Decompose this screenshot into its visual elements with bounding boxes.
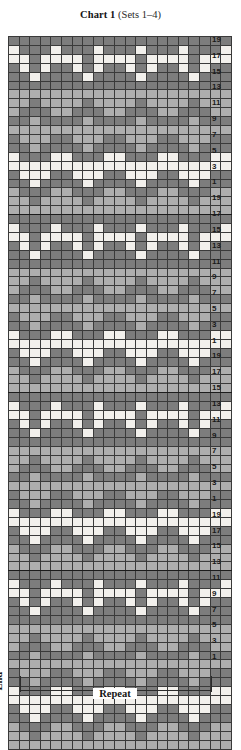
chart-cell [93, 161, 104, 170]
chart-cell [40, 250, 51, 259]
chart-cell [51, 393, 62, 402]
chart-cell [40, 54, 51, 63]
chart-cell [168, 500, 179, 509]
chart-cell [221, 704, 232, 713]
chart-cell [9, 651, 20, 660]
chart-cell [9, 437, 20, 446]
chart-cell [189, 562, 200, 571]
chart-row [9, 437, 232, 446]
chart-row [9, 259, 232, 268]
chart-cell [189, 161, 200, 170]
chart-cell [199, 500, 210, 509]
chart-cell [178, 446, 189, 455]
chart-cell [168, 464, 179, 473]
chart-cell [104, 81, 115, 90]
chart-cell [189, 37, 200, 46]
chart-cell [19, 45, 30, 54]
chart-cell [72, 170, 83, 179]
chart-cell [125, 268, 136, 277]
chart-cell [19, 740, 30, 749]
chart-cell [168, 143, 179, 152]
chart-cell [62, 428, 73, 437]
chart-cell [168, 526, 179, 535]
chart-cell [51, 375, 62, 384]
chart-cell [199, 268, 210, 277]
chart-cell [189, 544, 200, 553]
chart-cell [83, 304, 94, 313]
chart-cell [136, 713, 147, 722]
chart-cell [136, 72, 147, 81]
chart-cell [93, 384, 104, 393]
chart-cell [178, 197, 189, 206]
chart-cell [9, 304, 20, 313]
chart-cell [115, 384, 126, 393]
chart-cell [168, 250, 179, 259]
chart-row [9, 108, 232, 117]
chart-cell [72, 580, 83, 589]
chart-cell [72, 134, 83, 143]
row-number: 13 [212, 83, 241, 91]
chart-cell [62, 63, 73, 72]
chart-cell [83, 473, 94, 482]
chart-cell [125, 232, 136, 241]
chart-cell [9, 45, 20, 54]
chart-cell [72, 366, 83, 375]
chart-cell [115, 633, 126, 642]
chart-cell [62, 117, 73, 126]
chart-cell [62, 81, 73, 90]
chart-cell [199, 117, 210, 126]
chart-cell [19, 535, 30, 544]
chart-cell [83, 740, 94, 749]
chart-cell [9, 633, 20, 642]
chart-cell [157, 188, 168, 197]
chart-cell [189, 90, 200, 99]
chart-cell [51, 117, 62, 126]
chart-cell [19, 544, 30, 553]
chart-cell [104, 624, 115, 633]
chart-cell [157, 330, 168, 339]
chart-cell [115, 215, 126, 224]
row-number: 9 [212, 432, 241, 440]
chart-cell [178, 339, 189, 348]
chart-cell [62, 633, 73, 642]
chart-cell [157, 553, 168, 562]
chart-cell [62, 482, 73, 491]
chart-cell [125, 482, 136, 491]
chart-cell [72, 446, 83, 455]
chart-cell [221, 722, 232, 731]
chart-cell [62, 90, 73, 99]
chart-cell [125, 535, 136, 544]
chart-cell [51, 428, 62, 437]
chart-row [9, 295, 232, 304]
chart-cell [72, 206, 83, 215]
chart-cell [136, 277, 147, 286]
chart-cell [157, 704, 168, 713]
chart-cell [115, 37, 126, 46]
chart-cell [83, 197, 94, 206]
chart-cell [178, 330, 189, 339]
chart-cell [189, 642, 200, 651]
chart-cell [115, 428, 126, 437]
chart-cell [189, 295, 200, 304]
chart-cell [178, 393, 189, 402]
chart-cell [199, 393, 210, 402]
chart-cell [136, 90, 147, 99]
chart-cell [157, 562, 168, 571]
chart-cell [189, 598, 200, 607]
chart-cell [115, 99, 126, 108]
chart-cell [178, 63, 189, 72]
chart-cell [210, 704, 221, 713]
chart-cell [136, 143, 147, 152]
chart-cell [136, 704, 147, 713]
chart-cell [93, 99, 104, 108]
chart-cell [125, 411, 136, 420]
chart-cell [125, 90, 136, 99]
chart-cell [125, 37, 136, 46]
chart-cell [30, 624, 41, 633]
chart-cell [40, 134, 51, 143]
chart-cell [146, 179, 157, 188]
chart-cell [30, 330, 41, 339]
row-number: 19 [212, 194, 241, 202]
chart-cell [199, 544, 210, 553]
chart-cell [125, 473, 136, 482]
